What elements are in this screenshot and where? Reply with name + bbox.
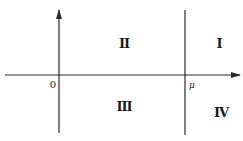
origin-label: 0: [50, 80, 56, 90]
mu-label: μ: [189, 81, 195, 90]
quadrant-diagram: 0 μ I II III IV: [0, 0, 243, 141]
region-2-label: II: [119, 37, 129, 50]
region-3-label: III: [116, 100, 131, 113]
region-4-label: IV: [214, 106, 228, 119]
region-1-label: I: [216, 37, 221, 50]
diagram-canvas: [0, 0, 243, 141]
